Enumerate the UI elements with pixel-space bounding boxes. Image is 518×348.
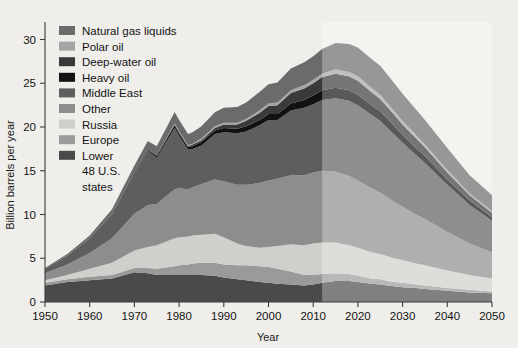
legend-swatch-heavy-oil xyxy=(59,73,75,82)
legend-label-heavy-oil: Heavy oil xyxy=(82,72,129,84)
legend-label-natural-gas-liquids: Natural gas liquids xyxy=(82,25,177,37)
legend-swatch-russia xyxy=(59,120,75,129)
legend-label-lower-48-us-states-line-3: states xyxy=(82,181,113,193)
y-tick-label: 5 xyxy=(30,252,36,264)
x-axis-label: Year xyxy=(257,331,280,343)
x-tick-label: 1950 xyxy=(32,310,58,322)
legend-swatch-europe xyxy=(59,135,75,144)
legend-label-europe: Europe xyxy=(82,134,119,146)
x-tick-label: 2000 xyxy=(256,310,282,322)
y-tick-label: 30 xyxy=(23,34,36,46)
legend-label-lower-48-us-states-line-2: 48 U.S. xyxy=(82,165,120,177)
stacked-area-chart: 051015202530 195019601970198019902000201… xyxy=(0,0,518,348)
x-tick-label: 2010 xyxy=(300,310,326,322)
legend-label-middle-east: Middle East xyxy=(82,87,143,99)
legend-swatch-polar-oil xyxy=(59,42,75,51)
legend-swatch-natural-gas-liquids xyxy=(59,26,75,35)
x-tick-label: 1970 xyxy=(122,310,148,322)
x-tick-label: 1980 xyxy=(166,310,192,322)
legend-label-other: Other xyxy=(82,103,111,115)
x-tick-label: 2040 xyxy=(435,310,461,322)
y-tick-label: 10 xyxy=(23,209,36,221)
y-tick-label: 15 xyxy=(23,165,36,177)
x-tick-label: 2030 xyxy=(390,310,416,322)
legend-label-polar-oil: Polar oil xyxy=(82,41,124,53)
projection-shading xyxy=(322,22,492,302)
x-tick-label: 1990 xyxy=(211,310,237,322)
x-tick-label: 2020 xyxy=(345,310,371,322)
legend-swatch-middle-east xyxy=(59,88,75,97)
x-tick-label: 2050 xyxy=(479,310,505,322)
y-axis-label: Billion barrels per year xyxy=(4,120,16,230)
legend-swatch-lower-48-u-s-states xyxy=(59,151,75,160)
y-tick-label: 25 xyxy=(23,77,36,89)
legend-label-russia: Russia xyxy=(82,119,118,131)
y-tick-label: 20 xyxy=(23,121,36,133)
legend-swatch-other xyxy=(59,104,75,113)
legend-label-deep-water-oil: Deep-water oil xyxy=(82,56,156,68)
chart-figure: 051015202530 195019601970198019902000201… xyxy=(0,0,518,348)
legend-label-lower-48-us-states-line-1: Lower xyxy=(82,150,113,162)
y-tick-label: 0 xyxy=(30,296,36,308)
legend-swatch-deep-water-oil xyxy=(59,57,75,66)
x-tick-label: 1960 xyxy=(77,310,103,322)
